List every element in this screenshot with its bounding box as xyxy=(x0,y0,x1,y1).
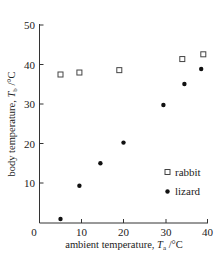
lizard-data-point xyxy=(121,140,125,144)
legend-label-lizard: lizard xyxy=(175,185,201,197)
lizard-data-point xyxy=(161,103,165,107)
rabbit-data-point xyxy=(117,68,122,73)
lizard-data-point xyxy=(58,217,62,221)
rabbit-data-point xyxy=(58,72,63,77)
y-tick-label: 30 xyxy=(24,98,36,110)
legend: rabbit lizard xyxy=(165,166,201,197)
x-tick-label: 10 xyxy=(76,226,88,238)
rabbit-marker-icon xyxy=(165,170,170,175)
lizard-data-point xyxy=(77,184,81,188)
x-axis-title: ambient temperature, Ta /°C xyxy=(65,239,183,252)
x-origin-label: 0 xyxy=(31,226,37,238)
chart-canvas: 50 40 30 20 10 0 10 20 30 40 ambient tem… xyxy=(0,0,222,255)
rabbit-data-point xyxy=(180,57,185,62)
y-tick-label: 10 xyxy=(24,177,36,189)
y-tick-label: 20 xyxy=(24,138,36,150)
lizard-data-point xyxy=(98,161,102,165)
y-tick-label: 50 xyxy=(24,19,36,31)
x-tick-label: 40 xyxy=(202,226,214,238)
y-axis-title: body temperature, Tb /°C xyxy=(6,71,19,176)
x-tick-label: 20 xyxy=(118,226,130,238)
lizard-marker-icon xyxy=(165,189,169,193)
lizard-data-point xyxy=(182,82,186,86)
legend-label-rabbit: rabbit xyxy=(175,166,201,178)
y-tick-label: 40 xyxy=(24,59,36,71)
rabbit-data-point xyxy=(77,70,82,75)
lizard-data-point xyxy=(199,67,203,71)
rabbit-data-point xyxy=(201,52,206,57)
x-tick-label: 30 xyxy=(161,226,173,238)
